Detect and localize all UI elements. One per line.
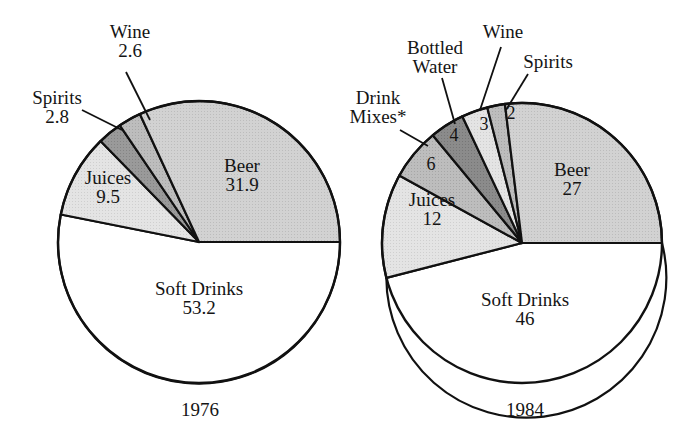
label-beer-1976: Beer 31.9 (200, 156, 284, 195)
value-spirits-1984: 2 (500, 104, 522, 122)
leader-line-drink-mixes-1984 (400, 130, 428, 146)
label-bottled-water-1984: Bottled Water (389, 38, 481, 77)
label-drink-mixes-1984: Drink Mixes* (334, 88, 422, 127)
year-label-1984: 1984 (485, 400, 565, 419)
pie-chart-figure: Wine 2.6 Spirits 2.8 Juices 9.5 Beer 31.… (0, 0, 696, 439)
label-juices-1984-name: Juices (390, 190, 474, 209)
label-soft-drinks-1984-name: Soft Drinks (448, 290, 602, 309)
pie-1984 (382, 47, 666, 418)
label-juices-1976-name: Juices (66, 168, 150, 187)
label-wine-1976-value: 2.6 (90, 41, 170, 60)
label-wine-1976: Wine 2.6 (90, 22, 170, 61)
value-drink-mixes-1984: 6 (420, 155, 442, 173)
slice-soft-drinks-1984[interactable] (386, 243, 666, 418)
label-spirits-1984-name: Spirits (508, 52, 588, 71)
leader-line-wine-1976 (126, 72, 150, 120)
value-wine-1984: 3 (473, 115, 495, 133)
leader-line-bottled-water-1984 (442, 78, 455, 124)
value-bottled-water-1984: 4 (443, 126, 465, 144)
label-juices-1984: Juices 12 (390, 190, 474, 229)
label-bottled-water-1984-line2: Water (389, 57, 481, 76)
label-spirits-1984: Spirits (508, 52, 588, 71)
leader-line-wine-1984 (480, 47, 501, 110)
label-bottled-water-1984-line1: Bottled (389, 38, 481, 57)
label-juices-1976: Juices 9.5 (66, 168, 150, 207)
label-beer-1984-name: Beer (530, 160, 614, 179)
pie-1976 (58, 72, 340, 384)
label-beer-1984: Beer 27 (530, 160, 614, 199)
label-juices-1976-value: 9.5 (66, 187, 150, 206)
label-drink-mixes-1984-line1: Drink (334, 88, 422, 107)
label-drink-mixes-1984-line2: Mixes* (334, 107, 422, 126)
label-beer-1976-name: Beer (200, 156, 284, 175)
label-soft-drinks-1984: Soft Drinks 46 (448, 290, 602, 329)
label-soft-drinks-1976-name: Soft Drinks (122, 279, 276, 298)
label-soft-drinks-1976: Soft Drinks 53.2 (122, 279, 276, 318)
label-juices-1984-value: 12 (390, 209, 474, 228)
label-spirits-1976-value: 2.8 (15, 107, 99, 126)
label-spirits-1976: Spirits 2.8 (15, 88, 99, 127)
label-beer-1984-value: 27 (530, 179, 614, 198)
pie-charts-svg (0, 0, 696, 439)
label-beer-1976-value: 31.9 (200, 175, 284, 194)
label-soft-drinks-1984-value: 46 (448, 309, 602, 328)
label-soft-drinks-1976-value: 53.2 (122, 298, 276, 317)
label-wine-1976-name: Wine (90, 22, 170, 41)
year-label-1976: 1976 (160, 400, 240, 419)
label-spirits-1976-name: Spirits (15, 88, 99, 107)
